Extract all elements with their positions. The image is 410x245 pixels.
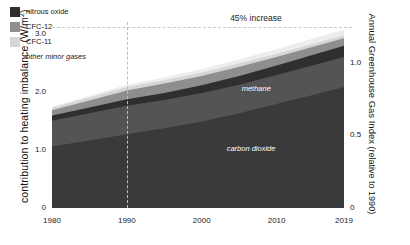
x-tick-2019: 2019 xyxy=(324,216,364,225)
right-tick-1-0: 1.0 xyxy=(350,58,361,67)
right-axis-title-line1: Annual Greenhouse Gas Index xyxy=(367,14,378,144)
legend-swatch-icon xyxy=(10,37,20,47)
legend-item-cfc-11[interactable]: CFC-11 xyxy=(10,35,86,48)
legend-label: CFC-12 xyxy=(26,22,52,31)
legend: nitrous oxideCFC-12CFC-11other minor gas… xyxy=(10,5,86,65)
legend-item-nitrous-oxide[interactable]: nitrous oxide xyxy=(10,5,86,18)
increase-dashed-horizontal xyxy=(52,27,352,28)
methane-label: methane xyxy=(242,84,271,93)
x-tick-2010: 2010 xyxy=(257,216,297,225)
x-tick-1990: 1990 xyxy=(107,216,147,225)
legend-item-cfc-12[interactable]: CFC-12 xyxy=(10,20,86,33)
plot-area: methanecarbon dioxide 45% increase xyxy=(52,22,344,208)
carbon-dioxide-label: carbon dioxide xyxy=(227,144,276,153)
plot-clip xyxy=(52,22,344,208)
legend-label: nitrous oxide xyxy=(26,7,69,16)
left-tick-0: 0 xyxy=(28,203,46,212)
left-tick-2-0: 2.0 xyxy=(28,87,46,96)
legend-swatch-icon xyxy=(10,7,20,17)
legend-label: other minor gases xyxy=(26,52,86,61)
increase-label: 45% increase xyxy=(226,13,286,23)
right-tick-0-5: 0.5 xyxy=(350,130,361,139)
legend-swatch-icon xyxy=(10,22,20,32)
legend-item-other-minor-gases[interactable]: other minor gases xyxy=(10,50,86,63)
right-tick-0: 0 xyxy=(350,203,354,212)
left-tick-1-0: 1.0 xyxy=(28,145,46,154)
greenhouse-gas-chart: contribution to heating imbalance (W/m2)… xyxy=(0,0,410,245)
year-1990-dashed-vertical xyxy=(127,22,128,208)
x-tick-2000: 2000 xyxy=(182,216,222,225)
right-axis-title: Annual Greenhouse Gas Index (relative to… xyxy=(367,14,378,214)
x-tick-1980: 1980 xyxy=(32,216,72,225)
legend-label: CFC-11 xyxy=(26,37,52,46)
right-axis-title-line2: (relative to 1990) xyxy=(367,147,377,215)
stacked-area-svg xyxy=(52,22,344,208)
